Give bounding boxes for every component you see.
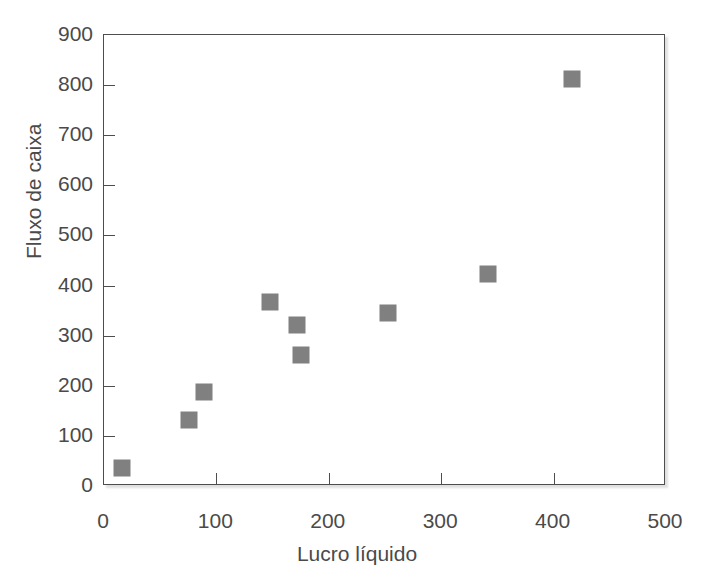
data-point (181, 411, 198, 428)
y-axis-tick-label: 900 (31, 22, 93, 46)
data-point (196, 383, 213, 400)
data-point (113, 459, 130, 476)
data-point (380, 304, 397, 321)
y-axis-tick-label: 300 (31, 323, 93, 347)
x-axis-tick-label: 0 (68, 509, 138, 533)
x-axis-title: Lucro líquido (0, 542, 714, 566)
y-axis-tick-label: 800 (31, 72, 93, 96)
x-axis-tick-label: 200 (293, 509, 363, 533)
data-point (262, 293, 279, 310)
y-axis-tick-label: 600 (31, 172, 93, 196)
x-axis-tick-label: 400 (518, 509, 588, 533)
x-axis-tick-label: 100 (180, 509, 250, 533)
plot-area (103, 34, 665, 485)
data-point (292, 346, 309, 363)
x-axis-tick-label: 500 (630, 509, 700, 533)
x-axis-tick-label: 300 (405, 509, 475, 533)
scatter-plot-figure: Fluxo de caixa 0100200300400500600700800… (0, 0, 714, 585)
y-axis-tick-label: 100 (31, 423, 93, 447)
y-axis-tick-label: 400 (31, 273, 93, 297)
y-axis-tick-label: 200 (31, 373, 93, 397)
data-point (289, 316, 306, 333)
y-axis-tick-label: 0 (31, 473, 93, 497)
data-points-layer (104, 35, 664, 484)
data-point (480, 265, 497, 282)
y-axis-tick-label: 700 (31, 122, 93, 146)
data-point (563, 71, 580, 88)
y-axis-tick-label: 500 (31, 222, 93, 246)
